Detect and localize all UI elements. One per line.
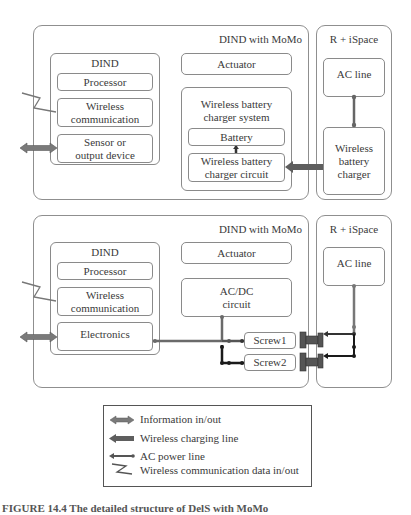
- bottom-wireless-comm-box: Wireless communication: [57, 287, 153, 316]
- top-charger-line3: charger: [338, 168, 371, 181]
- top-sensor-line2: output device: [75, 149, 135, 162]
- bottom-acdc-line2: circuit: [222, 298, 250, 311]
- top-r-ispace-title: R + iSpace: [317, 33, 391, 46]
- bottom-outer-title: DIND with MoMo: [219, 223, 302, 236]
- top-wireless-comm-box: Wireless communication: [57, 98, 153, 127]
- bottom-r-ispace-title: R + iSpace: [317, 223, 391, 236]
- bottom-actuator-box: Actuator: [181, 242, 292, 264]
- legend-label-ac-power: AC power line: [140, 450, 205, 463]
- legend-thick-arrow-icon: [109, 434, 134, 443]
- top-sensor-line1: Sensor or: [84, 136, 126, 149]
- top-wireless-charger-box: Wireless battery charger: [323, 127, 385, 195]
- top-ac-line-label: AC line: [337, 68, 372, 81]
- top-battery-label: Battery: [220, 131, 252, 144]
- bottom-processor-label: Processor: [84, 265, 127, 278]
- top-charger-line1: Wireless: [335, 142, 373, 155]
- top-wbc-system-title-2: charger system: [182, 111, 291, 124]
- bottom-acdc-line1: AC/DC: [220, 285, 254, 298]
- legend-label-information: Information in/out: [140, 413, 221, 426]
- bottom-wireless-comm-line2: communication: [71, 302, 139, 315]
- top-processor-box: Processor: [57, 73, 153, 91]
- top-sensor-box: Sensor or output device: [57, 134, 153, 163]
- legend-label-wireless-charging: Wireless charging line: [140, 432, 238, 445]
- top-wbc-circuit-box: Wireless battery charger circuit: [188, 153, 285, 182]
- figure-caption: FIGURE 14.4 The detailed structure of De…: [2, 502, 268, 515]
- legend-double-arrow-icon: [110, 416, 134, 424]
- bottom-electronics-label: Electronics: [80, 328, 129, 341]
- bottom-dind-title: DIND: [51, 246, 159, 259]
- top-dind-title: DIND: [51, 57, 159, 70]
- bottom-actuator-label: Actuator: [217, 247, 255, 260]
- top-actuator-box: Actuator: [181, 53, 292, 75]
- legend-label-wireless-data: Wireless communication data in/out: [140, 464, 299, 477]
- screw1-label: Screw1: [254, 334, 287, 347]
- legend-box: Information in/out Wireless charging lin…: [103, 405, 312, 487]
- top-actuator-label: Actuator: [217, 58, 255, 71]
- legend-zigzag-icon: [112, 464, 132, 474]
- top-processor-label: Processor: [84, 76, 127, 89]
- top-outer-title: DIND with MoMo: [219, 33, 302, 46]
- bottom-r-ispace-panel: R + iSpace: [316, 215, 392, 388]
- bottom-ac-line-box: AC line: [323, 247, 385, 286]
- bottom-acdc-box: AC/DC circuit: [181, 278, 292, 317]
- top-wbc-system-title-1: Wireless battery: [182, 98, 291, 111]
- bottom-wireless-comm-line1: Wireless: [86, 289, 124, 302]
- bottom-processor-box: Processor: [57, 262, 153, 280]
- screw2-box: Screw2: [244, 354, 296, 371]
- legend-power-line-icon: [109, 453, 135, 459]
- top-wbc-circuit-line2: charger circuit: [205, 168, 269, 181]
- top-ac-line-box: AC line: [323, 58, 385, 97]
- screw2-label: Screw2: [254, 356, 287, 369]
- top-charger-line2: battery: [339, 155, 370, 168]
- screw1-box: Screw1: [244, 332, 296, 349]
- top-wireless-comm-line2: communication: [71, 113, 139, 126]
- top-battery-box: Battery: [188, 128, 285, 146]
- top-wireless-comm-line1: Wireless: [86, 100, 124, 113]
- bottom-electronics-box: Electronics: [57, 322, 153, 351]
- bottom-ac-line-label: AC line: [337, 257, 372, 270]
- legend-icons: [104, 406, 144, 488]
- top-wbc-circuit-line1: Wireless battery: [201, 155, 272, 168]
